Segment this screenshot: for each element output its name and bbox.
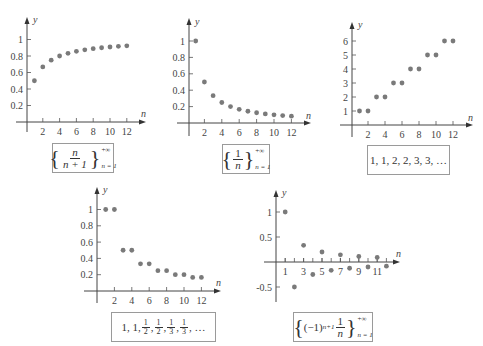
numerator: n bbox=[70, 147, 80, 159]
lower-limit: n = 1 bbox=[358, 331, 373, 339]
ellipsis: … bbox=[195, 321, 206, 333]
data-point bbox=[356, 254, 361, 259]
exponent: n+1 bbox=[323, 323, 335, 331]
data-point bbox=[301, 243, 306, 248]
data-point bbox=[320, 250, 325, 255]
caption-alternating-harmonic: { (−1)n+1 1 n } +∞ n = 1 bbox=[293, 312, 373, 342]
denominator: n bbox=[233, 160, 243, 171]
sequence-text: 1, 1, 2, 2, 3, 3, … bbox=[370, 154, 447, 166]
right-brace: } bbox=[346, 316, 357, 338]
fraction: 1 n bbox=[336, 316, 346, 339]
denominator: n + 1 bbox=[61, 159, 89, 170]
data-point bbox=[338, 252, 343, 257]
fraction: 13 bbox=[180, 319, 188, 336]
index-range: +∞ n = 1 bbox=[255, 147, 270, 171]
upper-limit: +∞ bbox=[101, 146, 116, 154]
caption-repeated-reciprocals: 1, 1, 12, 12, 13, 13, … bbox=[111, 312, 216, 342]
data-point bbox=[375, 255, 380, 260]
left-brace: { bbox=[293, 316, 304, 338]
lower-limit: n = 1 bbox=[255, 163, 270, 171]
data-point bbox=[310, 272, 315, 277]
fraction: 12 bbox=[155, 319, 163, 336]
fraction: 13 bbox=[167, 319, 175, 336]
axes bbox=[264, 190, 400, 302]
right-brace: } bbox=[244, 148, 255, 170]
caption-one-over-n: { 1 n } +∞ n = 1 bbox=[222, 144, 270, 174]
left-brace: { bbox=[222, 148, 233, 170]
data-point bbox=[366, 265, 371, 270]
x-tick-label: 7 bbox=[338, 266, 343, 277]
left-brace: { bbox=[49, 147, 60, 169]
x-tick-label: 1 bbox=[283, 266, 288, 277]
upper-limit: +∞ bbox=[255, 147, 270, 155]
y-tick-label: 0.5 bbox=[260, 232, 273, 243]
lower-limit: n = 1 bbox=[101, 162, 116, 170]
x-axis-label: n bbox=[396, 248, 401, 259]
base: (−1) bbox=[304, 321, 323, 333]
data-point bbox=[283, 210, 288, 215]
x-tick-label: 5 bbox=[320, 266, 325, 277]
x-tick-label: 9 bbox=[356, 266, 361, 277]
y-axis-arrow-icon bbox=[274, 190, 279, 197]
caption-n-over-n-plus-1: { n n + 1 } +∞ n = 1 bbox=[52, 143, 114, 173]
denominator: n bbox=[336, 328, 346, 339]
index-range: +∞ n = 1 bbox=[101, 146, 116, 170]
data-point bbox=[329, 268, 334, 273]
right-brace: } bbox=[90, 147, 101, 169]
upper-limit: +∞ bbox=[358, 315, 373, 323]
y-tick-label: 1 bbox=[267, 207, 272, 218]
fraction: 1 n bbox=[233, 148, 243, 171]
data-point bbox=[347, 266, 352, 271]
sequence-prefix: 1, 1, bbox=[122, 321, 141, 333]
data-point bbox=[384, 264, 389, 269]
x-tick-label: 11 bbox=[372, 266, 382, 277]
caption-repeated-integers: 1, 1, 2, 2, 3, 3, … bbox=[367, 145, 450, 175]
x-tick-label: 3 bbox=[301, 266, 306, 277]
y-tick-label: -0.5 bbox=[256, 282, 272, 293]
fraction: 12 bbox=[142, 319, 150, 336]
fraction: n n + 1 bbox=[61, 147, 89, 170]
index-range: +∞ n = 1 bbox=[358, 315, 373, 339]
numerator: 1 bbox=[336, 316, 346, 328]
x-axis-arrow-icon bbox=[393, 260, 400, 265]
y-axis-label: y bbox=[281, 187, 287, 198]
numerator: 1 bbox=[233, 148, 243, 160]
data-point bbox=[292, 285, 297, 290]
